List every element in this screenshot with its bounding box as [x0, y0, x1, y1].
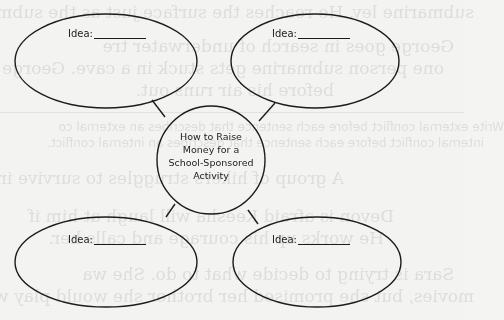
- idea-blank-line[interactable]: [94, 234, 146, 245]
- idea-field-bottom-left[interactable]: Idea:: [68, 234, 146, 245]
- idea-label: Idea:: [68, 28, 93, 39]
- idea-label: Idea:: [68, 234, 93, 245]
- idea-blank-line[interactable]: [298, 28, 350, 39]
- idea-field-bottom-right[interactable]: Idea:: [272, 234, 350, 245]
- central-topic-line: School-Sponsored: [158, 156, 264, 169]
- connector-bottom-left: [166, 204, 175, 217]
- idea-blank-line[interactable]: [298, 234, 350, 245]
- idea-field-top-left[interactable]: Idea:: [68, 28, 146, 39]
- connector-bottom-right: [248, 210, 258, 224]
- idea-bubble-bottom-left[interactable]: [15, 217, 197, 307]
- idea-field-top-right[interactable]: Idea:: [272, 28, 350, 39]
- idea-label: Idea:: [272, 234, 297, 245]
- idea-bubble-bottom-right[interactable]: [233, 217, 401, 307]
- connector-top-left: [152, 100, 165, 117]
- idea-label: Idea:: [272, 28, 297, 39]
- connector-top-right: [259, 103, 275, 121]
- central-topic: How to Raise Money for a School-Sponsore…: [158, 130, 264, 182]
- central-topic-line: Activity: [158, 169, 264, 182]
- central-topic-line: How to Raise: [158, 130, 264, 143]
- idea-blank-line[interactable]: [94, 28, 146, 39]
- central-topic-line: Money for a: [158, 143, 264, 156]
